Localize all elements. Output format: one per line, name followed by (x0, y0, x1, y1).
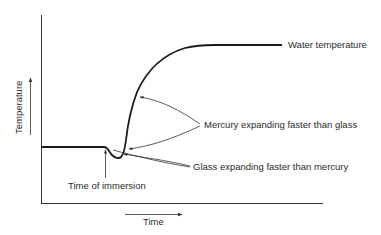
mercury-faster-pointers (129, 97, 200, 149)
x-axis-label: Time (143, 216, 164, 227)
glass-faster-pointers (113, 150, 190, 167)
glass-faster-label: Glass expanding faster than mercury (193, 161, 348, 172)
diagram-canvas: Water temperature Mercury expanding fast… (0, 0, 381, 235)
axes (41, 15, 323, 204)
mercury-faster-label: Mercury expanding faster than glass (204, 119, 357, 130)
y-axis-label: Temperature (13, 81, 24, 134)
water-temperature-label: Water temperature (288, 39, 367, 50)
time-of-immersion-label: Time of immersion (68, 180, 146, 191)
